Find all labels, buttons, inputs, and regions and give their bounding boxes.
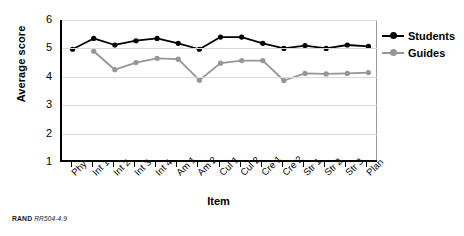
gridline-6 xyxy=(62,20,377,21)
source-note-id: RR504-4.9 xyxy=(34,215,67,222)
legend-label-students: Students xyxy=(408,30,455,42)
y-tick-label-1: 1 xyxy=(30,155,52,167)
y-axis-title: Average score xyxy=(15,0,27,129)
y-tick-label-2: 2 xyxy=(30,127,52,139)
plot-right-border xyxy=(376,20,377,160)
legend-swatch-students xyxy=(382,31,404,41)
source-note-prefix: RAND xyxy=(12,215,32,222)
y-tick-label-6: 6 xyxy=(30,13,52,25)
gridline-5 xyxy=(62,48,377,49)
plot-area xyxy=(60,20,377,162)
source-note: RAND RR504-4.9 xyxy=(12,215,67,222)
gridline-2 xyxy=(62,134,377,135)
x-axis-title: Item xyxy=(60,195,377,207)
y-tick-label-3: 3 xyxy=(30,98,52,110)
y-tick-label-4: 4 xyxy=(30,70,52,82)
gridline-3 xyxy=(62,105,377,106)
plot-background xyxy=(62,20,377,160)
gridline-4 xyxy=(62,77,377,78)
legend-label-guides: Guides xyxy=(408,47,445,59)
legend-item-guides: Guides xyxy=(382,44,455,61)
legend-swatch-guides xyxy=(382,48,404,58)
chart-figure: Average score 123456 PhyInt 1Int 2Int 3I… xyxy=(0,0,464,236)
y-tick-label-5: 5 xyxy=(30,41,52,53)
chart-legend: Students Guides xyxy=(382,27,455,61)
legend-item-students: Students xyxy=(382,27,455,44)
